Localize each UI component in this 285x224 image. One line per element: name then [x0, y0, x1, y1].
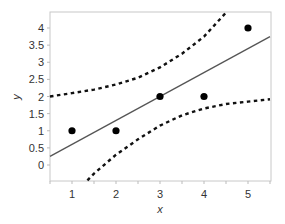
y-tick-label: 3 — [38, 56, 44, 68]
y-axis-label: y — [10, 93, 22, 101]
data-point — [200, 93, 207, 100]
x-axis: 12345 — [50, 181, 270, 200]
data-point — [68, 127, 75, 134]
data-point — [244, 24, 251, 31]
band-line — [50, 13, 226, 97]
scatter-chart: 00.511.522.533.54 12345 x y — [0, 0, 285, 224]
y-tick-label: 1 — [38, 125, 44, 137]
x-tick-label: 4 — [201, 188, 207, 200]
x-tick-label: 5 — [245, 188, 251, 200]
y-tick-label: 2.5 — [29, 73, 44, 85]
x-axis-label: x — [156, 203, 163, 215]
x-tick-label: 2 — [113, 188, 119, 200]
y-tick-label: 1.5 — [29, 108, 44, 120]
y-tick-label: 0 — [38, 159, 44, 171]
band-line — [87, 99, 270, 180]
y-tick-label: 2 — [38, 91, 44, 103]
data-point — [156, 93, 163, 100]
data-points — [68, 24, 251, 134]
data-point — [112, 127, 119, 134]
x-tick-label: 1 — [69, 188, 75, 200]
x-tick-label: 3 — [157, 188, 163, 200]
y-tick-label: 0.5 — [29, 142, 44, 154]
y-tick-label: 3.5 — [29, 39, 44, 51]
y-axis: 00.511.522.533.54 — [29, 22, 50, 171]
y-tick-label: 4 — [38, 22, 44, 34]
